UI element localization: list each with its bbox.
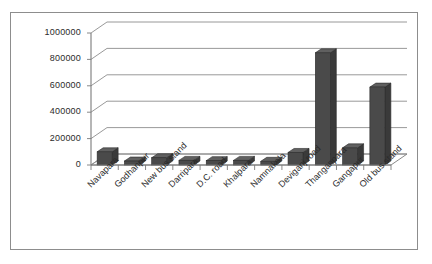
x-axis-category-label: Old bus stand	[358, 143, 404, 189]
x-axis-category-label: New bus stand	[140, 140, 189, 189]
x-axis-category-labels: NavaparaGodhanpurNew bus standDarriparaD…	[11, 13, 419, 251]
chart-frame: 02000004000006000008000001000000 Navapar…	[10, 12, 418, 250]
